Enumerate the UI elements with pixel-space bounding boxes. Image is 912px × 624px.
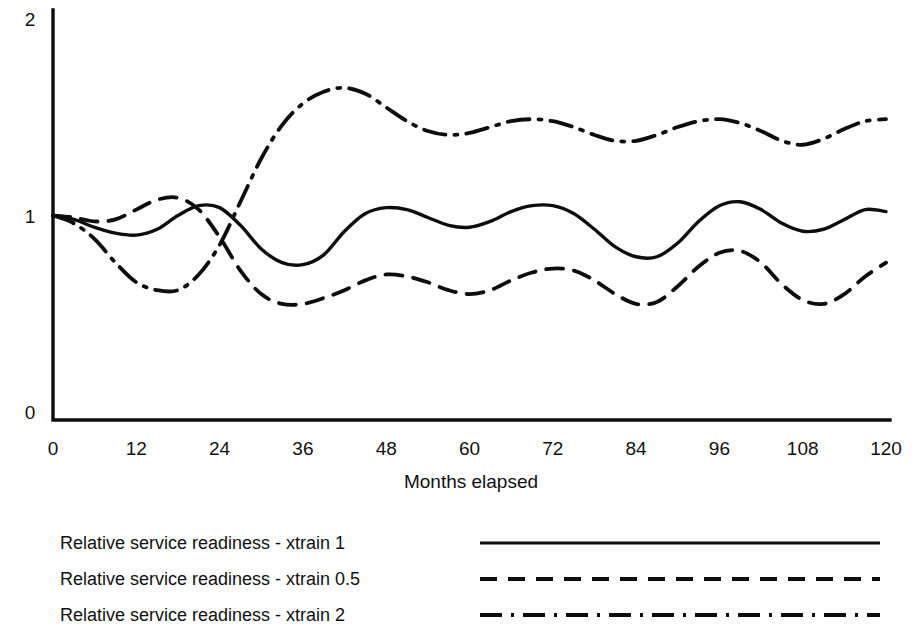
series-line-1 bbox=[53, 202, 886, 266]
chart-legend: Relative service readiness - xtrain 1Rel… bbox=[60, 533, 880, 624]
x-tick-label: 108 bbox=[787, 438, 819, 459]
x-tick-label: 96 bbox=[709, 438, 730, 459]
x-tick-label: 84 bbox=[626, 438, 648, 459]
y-tick-label: 1 bbox=[25, 206, 36, 227]
x-axis-tick-labels: 01224364860728496108120 bbox=[48, 438, 902, 459]
series-line-3 bbox=[53, 88, 886, 292]
y-tick-label: 0 bbox=[25, 402, 36, 423]
x-tick-label: 36 bbox=[292, 438, 313, 459]
x-axis-title: Months elapsed bbox=[404, 471, 538, 492]
x-tick-label: 120 bbox=[870, 438, 902, 459]
y-tick-label: 2 bbox=[25, 9, 36, 30]
y-axis-tick-labels: 012 bbox=[25, 9, 36, 423]
x-tick-label: 72 bbox=[542, 438, 563, 459]
series-line-2 bbox=[53, 197, 886, 305]
x-tick-label: 24 bbox=[209, 438, 231, 459]
chart-series-group bbox=[53, 88, 886, 305]
x-tick-label: 60 bbox=[459, 438, 480, 459]
legend-label-1: Relative service readiness - xtrain 1 bbox=[60, 533, 345, 553]
legend-label-2: Relative service readiness - xtrain 0.5 bbox=[60, 569, 360, 589]
x-tick-label: 0 bbox=[48, 438, 59, 459]
x-tick-label: 48 bbox=[376, 438, 397, 459]
x-tick-label: 12 bbox=[126, 438, 147, 459]
legend-label-3: Relative service readiness - xtrain 2 bbox=[60, 605, 345, 624]
chart-figure: 012 01224364860728496108120 Months elaps… bbox=[0, 0, 912, 624]
